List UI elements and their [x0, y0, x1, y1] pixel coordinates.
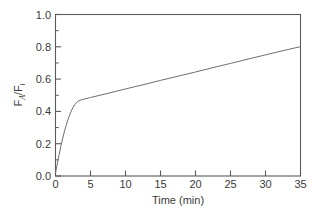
y-tick-label: 0.0	[36, 170, 51, 182]
x-tick-label: 25	[224, 178, 236, 190]
x-tick-label: 5	[87, 178, 93, 190]
line-chart-svg: 0 5 10 15 20 25 30 35 0.0 0.2 0.4 0.6 0.…	[0, 0, 314, 210]
x-tick-label: 10	[119, 178, 131, 190]
y-tick-label: 1.0	[36, 9, 51, 21]
x-tick-label: 35	[294, 178, 306, 190]
x-tick-label: 30	[259, 178, 271, 190]
y-tick-label: 0.6	[36, 73, 51, 85]
y-axis-title-sub-i: i	[18, 83, 27, 85]
y-tick-label: 0.4	[36, 105, 51, 117]
x-tick-label: 15	[154, 178, 166, 190]
y-tick-label: 0.2	[36, 138, 51, 150]
y-axis-title-slash: /F	[12, 85, 24, 95]
x-tick-label: 20	[189, 178, 201, 190]
x-axis-title: Time (min)	[152, 194, 204, 206]
chart-figure: 0 5 10 15 20 25 30 35 0.0 0.2 0.4 0.6 0.…	[0, 0, 314, 210]
x-tick-label: 0	[52, 178, 58, 190]
y-tick-label: 0.8	[36, 41, 51, 53]
